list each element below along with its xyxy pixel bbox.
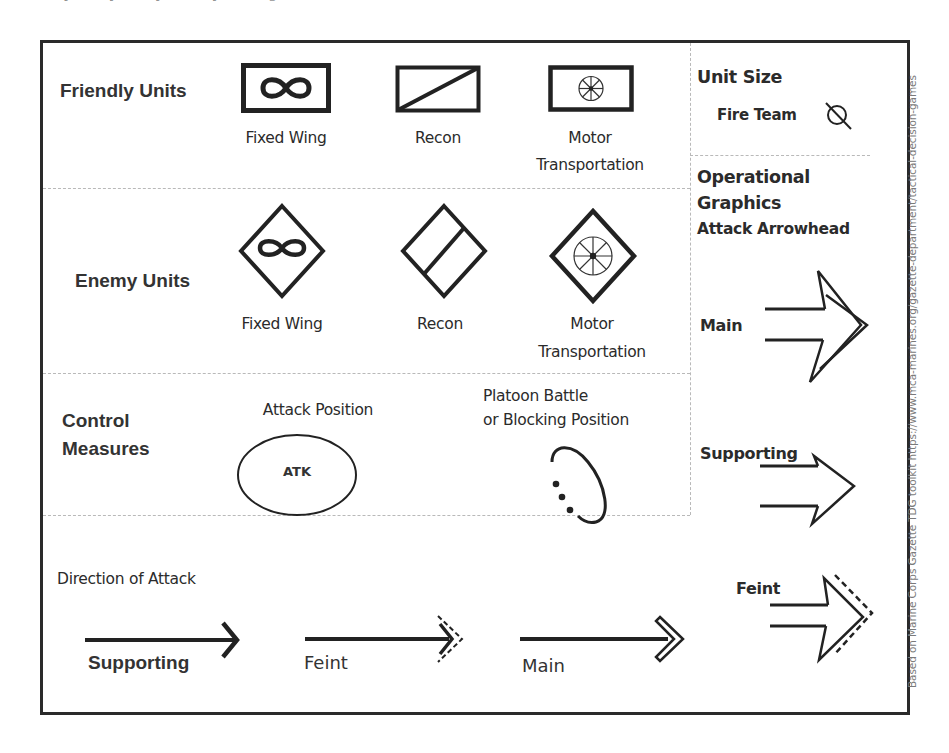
- section-title-friendly-units: Friendly Units: [60, 80, 187, 102]
- feint-attack-arrowhead-icon: [768, 575, 868, 695]
- section-title-control-measures-2: Measures: [62, 438, 150, 460]
- attack-arrowhead-subtitle: Attack Arrowhead: [697, 218, 850, 240]
- supporting-attack-arrowhead-icon: [760, 456, 860, 526]
- right-divider: [690, 155, 870, 156]
- friendly-motor-label-line2: Transportation: [510, 151, 670, 180]
- section-title-control-measures-1: Control: [62, 410, 130, 432]
- section-title-unit-size: Unit Size: [697, 65, 782, 90]
- section-title-operational-graphics-1: Operational: [697, 165, 810, 190]
- slash-in-diamond-icon: [400, 203, 488, 299]
- battle-position-label-line2: or Blocking Position: [483, 408, 629, 432]
- doa-supporting-label: Supporting: [88, 652, 189, 674]
- fire-team-label: Fire Team: [717, 104, 797, 126]
- doa-feint-label: Feint: [304, 652, 348, 673]
- row-divider-1: [43, 188, 690, 189]
- diagonal-slash-rectangle-icon: [395, 65, 481, 113]
- attack-position-text: ATK: [257, 464, 337, 479]
- attack-position-label: Attack Position: [228, 396, 408, 425]
- credit-text: Based on Marine Corps Gazette TDG toolki…: [906, 68, 922, 688]
- enemy-motor-label-line2: Transportation: [512, 338, 672, 367]
- section-title-enemy-units: Enemy Units: [75, 270, 190, 292]
- infinity-in-diamond-icon: [238, 203, 326, 299]
- wheel-in-rectangle-icon: [548, 65, 634, 112]
- friendly-motor-label-line1: Motor: [510, 124, 670, 153]
- friendly-recon-label: Recon: [378, 124, 498, 153]
- enemy-motor-label-line1: Motor: [512, 310, 672, 339]
- wheel-in-diamond-icon: [549, 208, 637, 304]
- column-divider: [690, 43, 691, 515]
- enemy-recon-label: Recon: [380, 310, 500, 339]
- main-attack-arrowhead-icon: [760, 265, 875, 385]
- row-divider-2: [43, 373, 690, 374]
- infinity-in-rectangle-icon: [241, 63, 331, 113]
- circle-slash-icon: [822, 100, 854, 132]
- enemy-fixed-wing-label: Fixed Wing: [222, 310, 342, 339]
- og-main-label: Main: [700, 315, 742, 337]
- friendly-fixed-wing-label: Fixed Wing: [226, 124, 346, 153]
- doa-main-label: Main: [522, 655, 565, 676]
- section-title-direction-of-attack: Direction of Attack: [57, 568, 196, 590]
- cropped-header-text: ...by analytically ... they ... diagram …: [40, 0, 680, 8]
- battle-position-label-line1: Platoon Battle: [483, 384, 588, 408]
- section-title-operational-graphics-2: Graphics: [697, 191, 781, 216]
- battle-position-icon: [540, 440, 620, 530]
